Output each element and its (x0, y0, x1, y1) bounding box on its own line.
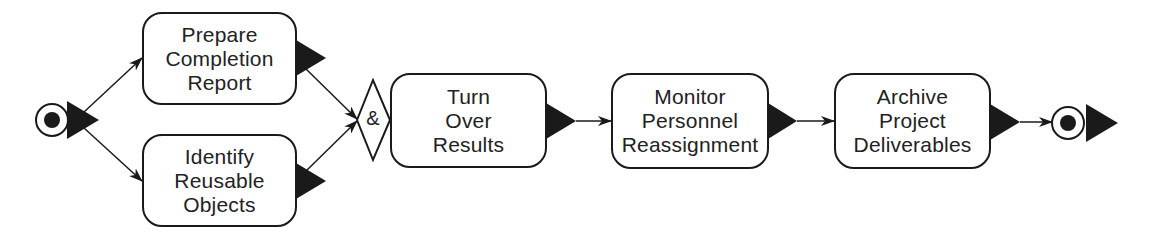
activity-label-line: Prepare (165, 23, 273, 47)
activity-label-line: Monitor (622, 85, 759, 109)
activity-monitor-personnel-reassignment: Monitor Personnel Reassignment (611, 73, 769, 169)
flow-prepare-to-join (305, 68, 357, 119)
join-label: & (356, 107, 390, 130)
turnover-output-pin-icon (546, 103, 576, 139)
flow-identify-to-join (305, 121, 357, 172)
activity-archive-project-deliverables: Archive Project Deliverables (834, 73, 991, 169)
activity-label-line: Archive (854, 85, 972, 109)
activity-turn-over-results: Turn Over Results (390, 73, 547, 168)
flow-start-to-identify (84, 128, 142, 181)
activity-label-line: Reusable (174, 169, 264, 193)
activity-label-line: Identify (174, 145, 264, 169)
activity-label-line: Over (433, 109, 504, 133)
activity-label-line: Results (433, 133, 504, 157)
activity-label-line: Turn (433, 85, 504, 109)
archive-output-pin-icon (990, 104, 1020, 140)
activity-identify-reusable-objects: Identify Reusable Objects (142, 134, 297, 227)
flow-start-to-prepare (84, 58, 142, 112)
activity-label-line: Deliverables (854, 133, 972, 157)
activity-label-line: Completion (165, 47, 273, 71)
activity-label-line: Objects (174, 193, 264, 217)
activity-label-line: Project (854, 109, 972, 133)
prepare-output-pin-icon (296, 40, 326, 76)
activity-label-line: Personnel (622, 109, 759, 133)
activity-label-line: Reassignment (622, 133, 759, 157)
end-node (1052, 104, 1118, 142)
identify-output-pin-icon (296, 163, 326, 199)
activity-label-line: Report (165, 71, 273, 95)
activity-prepare-completion-report: Prepare Completion Report (142, 12, 297, 105)
end-output-pin-icon (1086, 104, 1118, 142)
start-output-pin-icon (67, 101, 99, 139)
monitor-output-pin-icon (768, 103, 797, 139)
